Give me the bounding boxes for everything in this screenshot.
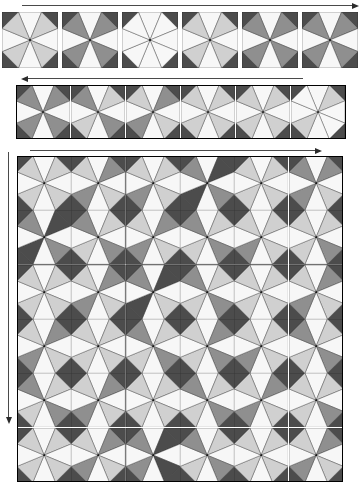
grid-tile-r3-c5	[234, 265, 288, 319]
palette-tile-t6	[302, 12, 358, 68]
grid-tile-r2-c2	[71, 210, 125, 264]
grid-tile-r5-c3	[126, 373, 180, 427]
grid-tile-r5-c2	[71, 373, 125, 427]
grid-tile-r4-c4	[180, 319, 234, 373]
grid-tile-r2-c3	[126, 210, 180, 264]
palette-tile-t5	[242, 12, 298, 68]
middle-arrow-head	[21, 76, 28, 82]
grid-tile-r6-c2	[71, 428, 125, 482]
grid-left-arrow-head	[6, 417, 12, 424]
grid-tile-r5-c6	[289, 373, 343, 427]
palette-tile-t1	[2, 12, 58, 68]
grid-tile-r4-c6	[289, 319, 343, 373]
sequence-tile-m2	[71, 85, 125, 139]
grid-tile-r1-c6	[289, 156, 343, 210]
grid-tile-r6-c5	[234, 428, 288, 482]
grid-top-arrow	[30, 150, 315, 151]
sequence-tile-m4	[181, 85, 235, 139]
grid-tile-r3-c6	[289, 265, 343, 319]
grid-tile-r6-c3	[126, 428, 180, 482]
grid-tile-r4-c5	[234, 319, 288, 373]
grid-left-arrow	[8, 152, 9, 417]
grid-tile-r3-c4	[180, 265, 234, 319]
grid-tile-r5-c5	[234, 373, 288, 427]
sequence-tile-m5	[236, 85, 290, 139]
tile-palette-row	[2, 12, 362, 68]
grid-top-arrow-head	[315, 148, 322, 154]
sequence-tile-m1	[16, 85, 70, 139]
grid-tile-r5-c1	[17, 373, 71, 427]
grid-tile-r4-c2	[71, 319, 125, 373]
grid-tile-r5-c4	[180, 373, 234, 427]
grid-tile-r2-c1	[17, 210, 71, 264]
grid-tile-r1-c3	[126, 156, 180, 210]
tiling-grid	[17, 156, 343, 482]
grid-tile-r3-c1	[17, 265, 71, 319]
grid-tile-r1-c1	[17, 156, 71, 210]
grid-tile-r6-c1	[17, 428, 71, 482]
grid-tile-r4-c3	[126, 319, 180, 373]
grid-tile-r2-c4	[180, 210, 234, 264]
tile-sequence-row	[16, 85, 346, 139]
grid-tile-r6-c6	[289, 428, 343, 482]
palette-tile-t4	[182, 12, 238, 68]
middle-arrow	[28, 78, 303, 79]
top-arrow	[22, 5, 352, 6]
grid-tile-r2-c5	[234, 210, 288, 264]
grid-tile-r1-c2	[71, 156, 125, 210]
grid-tile-r1-c5	[234, 156, 288, 210]
grid-tile-r6-c4	[180, 428, 234, 482]
top-arrow-head	[352, 3, 359, 9]
grid-tile-r4-c1	[17, 319, 71, 373]
sequence-tile-m6	[291, 85, 345, 139]
grid-tile-r3-c2	[71, 265, 125, 319]
palette-tile-t3	[122, 12, 178, 68]
sequence-tile-m3	[126, 85, 180, 139]
grid-tile-r3-c3	[126, 265, 180, 319]
palette-tile-t2	[62, 12, 118, 68]
grid-tile-r1-c4	[180, 156, 234, 210]
grid-tile-r2-c6	[289, 210, 343, 264]
